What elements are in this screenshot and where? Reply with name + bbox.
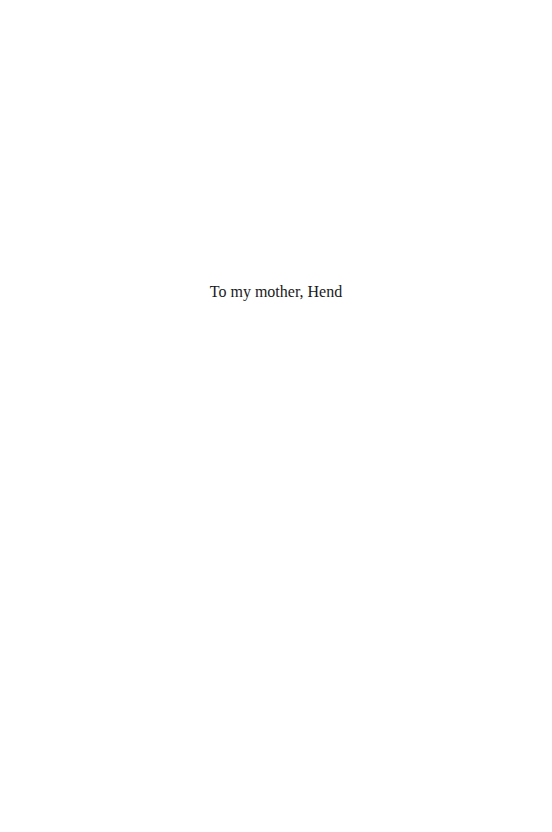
dedication-text: To my mother, Hend bbox=[0, 283, 552, 301]
book-page: To my mother, Hend bbox=[0, 0, 552, 832]
